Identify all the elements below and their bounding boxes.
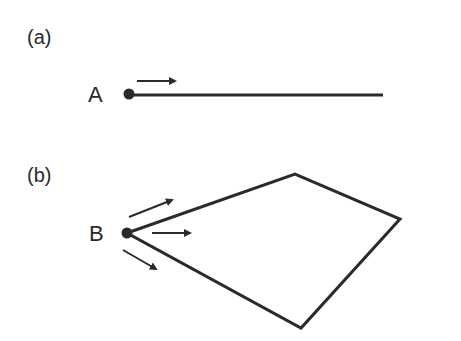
panel-b bbox=[122, 174, 401, 328]
arrow-b-upper-icon bbox=[129, 200, 172, 217]
diagram-canvas: (a) A (b) B bbox=[0, 0, 461, 341]
arrow-b-lower-icon bbox=[123, 250, 156, 269]
panel-a bbox=[124, 81, 384, 100]
diagram-svg bbox=[0, 0, 461, 341]
point-a-dot bbox=[124, 89, 135, 100]
quadrilateral-b bbox=[127, 174, 400, 328]
point-b-dot bbox=[122, 228, 133, 239]
